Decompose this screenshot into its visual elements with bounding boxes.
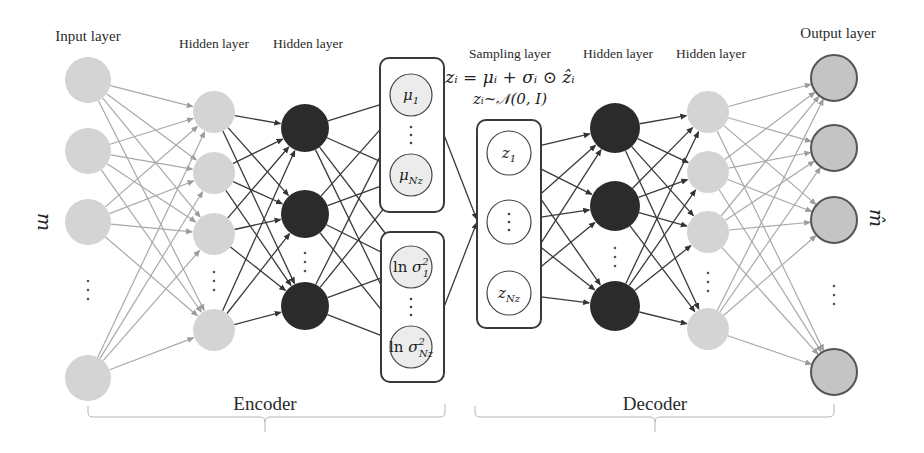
- decoder-hidden1-node: [590, 281, 640, 331]
- encoder-hidden2-node: [281, 190, 329, 238]
- edge-decoder-hidden2-to-output: [717, 99, 823, 310]
- ellipsis-dot: [87, 298, 90, 301]
- output-node: [811, 55, 857, 101]
- input-symbol-m: m: [34, 213, 56, 231]
- edge-decoder-hidden2-to-output: [728, 336, 811, 364]
- edge-hidden1-to-hidden2: [235, 219, 281, 229]
- edge-input-to-hidden1: [105, 237, 197, 316]
- edge-hidden1-to-hidden2: [226, 190, 291, 285]
- ellipsis-dot: [508, 229, 511, 232]
- output-symbol-m-hat: m̂: [866, 209, 888, 227]
- ellipsis-dot: [833, 303, 836, 306]
- edge-hidden1-to-hidden2: [227, 234, 290, 314]
- ellipsis-dot: [410, 306, 413, 309]
- edge-decoder-hidden1-to-hidden2: [639, 213, 687, 226]
- output-node: [811, 197, 857, 243]
- edge-decoder-hidden1-to-hidden2: [638, 139, 689, 163]
- decoder-hidden-layer-1-title: Hidden layer: [583, 46, 654, 61]
- edge-decoder-hidden2-to-output: [724, 126, 816, 205]
- encoder-hidden-layer-1-title: Hidden layer: [179, 36, 250, 51]
- edge-decoder-hidden2-to-output: [725, 92, 815, 159]
- encoder-hidden1-node: [193, 213, 235, 255]
- decoder-hidden-layer-2-title: Hidden layer: [676, 46, 747, 61]
- edge-input-to-hidden1: [103, 98, 201, 217]
- edge-decoder-hidden2-to-output: [721, 97, 819, 216]
- encoder-hidden1-node: [193, 152, 235, 194]
- edge-decoder-hidden2-to-output: [728, 84, 811, 106]
- edge-decoder-hidden1-to-hidden2: [635, 246, 691, 291]
- ellipsis-dot: [707, 272, 710, 275]
- edge-hidden1-to-hidden2: [233, 139, 283, 164]
- ellipsis-dot: [614, 265, 617, 268]
- ellipsis-dot: [833, 285, 836, 288]
- edge-decoder-hidden1-to-hidden2: [640, 116, 687, 124]
- input-layer-title: Input layer: [55, 28, 120, 44]
- edge-input-to-hidden1: [110, 86, 192, 107]
- logvar-node-label: ln σ21: [393, 256, 429, 279]
- output-node: [811, 125, 857, 171]
- output-layer-title: Output layer: [800, 25, 875, 41]
- decoder-hidden2-node: [687, 211, 729, 253]
- prior-equation: zᵢ~𝒩(0, I): [472, 90, 547, 108]
- edge-input-to-hidden1: [100, 192, 202, 359]
- input-node: [65, 128, 111, 174]
- ellipsis-dot: [213, 271, 216, 274]
- decoder-hidden2-node: [687, 151, 729, 193]
- ellipsis-dot: [410, 142, 413, 145]
- decoder-hidden1-node: [590, 103, 640, 153]
- ellipsis-dot: [410, 298, 413, 301]
- ellipsis-dot: [410, 134, 413, 137]
- edge-hidden1-to-hidden2: [230, 247, 285, 290]
- edge-logvar-to-sampling: [444, 223, 477, 307]
- edge-input-to-hidden1: [107, 164, 195, 222]
- input-node: [65, 57, 111, 103]
- ellipsis-dot: [707, 281, 710, 284]
- edge-decoder-hidden1-to-hidden2: [639, 312, 686, 324]
- encoder-hidden1-node: [193, 309, 235, 351]
- encoder-hidden2-node: [281, 282, 329, 330]
- ellipsis-dot: [213, 289, 216, 292]
- edge-mu-to-sampling: [444, 135, 477, 219]
- sampling-layer-title: Sampling layer: [469, 46, 552, 61]
- encoder-hidden1-node: [193, 91, 235, 133]
- ellipsis-dot: [410, 126, 413, 129]
- edge-decoder-hidden2-to-output: [729, 152, 811, 168]
- encoder-hidden-layer-2-title: Hidden layer: [273, 36, 344, 51]
- edge-input-to-hidden1: [109, 181, 193, 214]
- edge-input-to-hidden1: [101, 170, 201, 312]
- encoder-hidden2-node: [281, 104, 329, 152]
- ellipsis-dot: [508, 213, 511, 216]
- decoder-hidden2-node: [687, 308, 729, 350]
- ellipsis-dot: [833, 294, 836, 297]
- ellipsis-dot: [614, 247, 617, 250]
- reparameterization-equation: zᵢ = μᵢ + σᵢ ⊙ ẑᵢ: [444, 67, 574, 87]
- ellipsis-dot: [304, 252, 307, 255]
- vae-diagram-svg: μ1μNzln σ21ln σ2Nzz1zNz Input layer Hidd…: [0, 0, 924, 453]
- ellipsis-dot: [87, 289, 90, 292]
- decoder-label: Decoder: [623, 393, 688, 414]
- edge-hidden1-to-hidden2: [233, 182, 282, 204]
- decoder-hidden2-node: [687, 91, 729, 133]
- ellipsis-dot: [304, 270, 307, 273]
- ellipsis-dot: [614, 256, 617, 259]
- edge-hidden1-to-hidden2: [235, 116, 281, 124]
- encoder-label: Encoder: [233, 393, 297, 414]
- edge-hidden1-to-hidden2: [234, 312, 281, 324]
- ellipsis-dot: [508, 221, 511, 224]
- output-node: [811, 349, 857, 395]
- edge-input-to-hidden1: [105, 126, 197, 206]
- edge-decoder-hidden2-to-output: [724, 236, 816, 316]
- ellipsis-dot: [410, 314, 413, 317]
- vae-diagram: μ1μNzln σ21ln σ2Nzz1zNz Input layer Hidd…: [0, 0, 924, 453]
- edge-decoder-hidden2-to-output: [720, 168, 820, 312]
- decoder-hidden1-node: [590, 181, 640, 231]
- ellipsis-dot: [87, 280, 90, 283]
- ellipsis-dot: [213, 280, 216, 283]
- ellipsis-dot: [304, 261, 307, 264]
- edge-decoder-hidden2-to-output: [717, 131, 823, 351]
- input-node: [65, 355, 111, 401]
- ellipsis-dot: [707, 290, 710, 293]
- nodes-group: μ1μNzln σ21ln σ2Nzz1zNz: [65, 55, 857, 401]
- edge-input-to-hidden1: [109, 338, 193, 370]
- input-node: [65, 199, 111, 245]
